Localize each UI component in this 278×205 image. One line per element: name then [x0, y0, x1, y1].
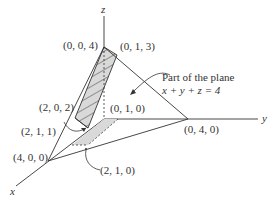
- hatched-region: [75, 47, 117, 128]
- z-axis-label: z: [101, 4, 105, 15]
- annotation-line1: Part of the plane: [162, 72, 234, 83]
- annotation-line2: x + y + z = 4: [162, 85, 220, 96]
- leader-210: [86, 150, 100, 170]
- point-label-013: (0, 1, 3): [120, 41, 155, 52]
- point-label-400: (4, 0, 0): [13, 152, 48, 163]
- point-label-211: (2, 1, 1): [21, 126, 56, 137]
- point-label-040: (0, 4, 0): [184, 124, 219, 135]
- plane-edge-xy: [48, 119, 188, 161]
- y-axis-label: y: [262, 113, 267, 124]
- plane-diagram: z y x (0, 0, 4) (0, 1, 3) (2, 0, 2) (0, …: [0, 0, 278, 205]
- shaded-base: [72, 119, 118, 145]
- point-label-004: (0, 0, 4): [63, 40, 98, 51]
- x-axis-label: x: [10, 186, 15, 197]
- point-label-210: (2, 1, 0): [100, 165, 135, 176]
- point-label-202: (2, 0, 2): [39, 102, 74, 113]
- point-label-010: (0, 1, 0): [110, 103, 145, 114]
